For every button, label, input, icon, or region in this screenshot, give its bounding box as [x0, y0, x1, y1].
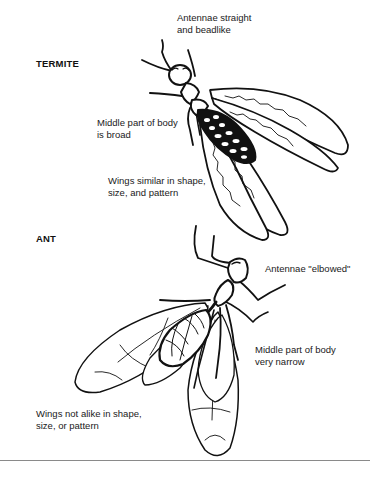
- insect-illustrations: [0, 0, 370, 478]
- ant-illustration: [75, 226, 285, 456]
- bottom-divider: [0, 460, 370, 461]
- termite-illustration: [142, 40, 348, 240]
